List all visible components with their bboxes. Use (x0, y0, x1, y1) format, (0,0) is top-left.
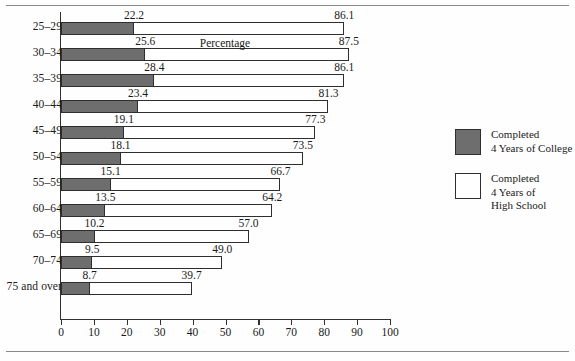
x-tick-label: 100 (381, 326, 398, 339)
filled-square-swatch (455, 129, 481, 155)
bar-value-label-college: 13.5 (95, 191, 115, 203)
category-label: 45–49 (0, 124, 62, 136)
category-label: 55–59 (0, 176, 62, 188)
bar-college (61, 22, 134, 35)
bar-value-label-high-school: 39.7 (182, 269, 202, 281)
category-label: 25–29 (0, 20, 62, 32)
legend-label: Completed 4 Years of High School (491, 172, 575, 213)
bar-college (61, 204, 105, 217)
x-tick-mark (61, 319, 62, 325)
bar-college (61, 48, 145, 61)
x-tick-label: 70 (286, 326, 298, 339)
x-tick-mark (193, 319, 194, 325)
category-label: 50–54 (0, 150, 62, 162)
legend-label: Completed 4 Years of College (491, 128, 575, 155)
bar-value-label-college: 9.5 (85, 243, 99, 255)
category-label: 65–69 (0, 228, 62, 240)
x-tick-mark (258, 319, 259, 325)
bar-value-label-college: 28.4 (144, 61, 164, 73)
x-tick-label: 10 (88, 326, 100, 339)
bar-row: 25–2922.286.1 (0, 12, 575, 38)
category-label: 35–39 (0, 72, 62, 84)
x-tick-label: 30 (154, 326, 166, 339)
x-tick-mark (390, 319, 391, 325)
figure-top-rule (6, 5, 569, 6)
bar-value-label-high-school: 66.7 (270, 165, 290, 177)
x-tick-label: 40 (187, 326, 199, 339)
category-label: 70–74 (0, 254, 62, 266)
x-tick-label: 80 (318, 326, 330, 339)
bar-value-label-high-school: 73.5 (293, 139, 313, 151)
x-tick-mark (94, 319, 95, 325)
x-tick-mark (357, 319, 358, 325)
bar-college (61, 230, 95, 243)
bar-college (61, 152, 121, 165)
bar-college (61, 74, 154, 87)
bar-value-label-high-school: 77.3 (305, 113, 325, 125)
bar-row: 75 and over8.739.7 (0, 272, 575, 298)
category-label: 40–44 (0, 98, 62, 110)
bar-value-label-college: 19.1 (114, 113, 134, 125)
legend-item: Completed 4 Years of High School (455, 172, 575, 213)
bar-value-label-college: 8.7 (82, 269, 96, 281)
bar-college (61, 126, 124, 139)
bar-college (61, 282, 90, 295)
bar-value-label-college: 15.1 (101, 165, 121, 177)
figure-bar-chart-education-by-age: 25–2922.286.130–3425.687.535–3928.486.14… (0, 0, 575, 361)
bar-value-label-high-school: 81.3 (318, 87, 338, 99)
x-tick-label: 60 (253, 326, 265, 339)
x-tick-mark (226, 319, 227, 325)
x-tick-mark (324, 319, 325, 325)
x-tick-mark (127, 319, 128, 325)
category-label: 60–64 (0, 202, 62, 214)
bar-value-label-high-school: 86.1 (334, 9, 354, 21)
hollow-square-swatch (455, 173, 481, 199)
x-tick-mark (160, 319, 161, 325)
x-axis-title: Percentage (0, 37, 450, 49)
x-tick-label: 50 (220, 326, 232, 339)
bar-value-label-high-school: 49.0 (212, 243, 232, 255)
category-label: 75 and over (0, 280, 62, 292)
bar-college (61, 178, 111, 191)
bar-value-label-college: 23.4 (128, 87, 148, 99)
bar-value-label-high-school: 86.1 (334, 61, 354, 73)
x-tick-label: 0 (58, 326, 64, 339)
bar-value-label-college: 22.2 (124, 9, 144, 21)
figure-bottom-rule (6, 351, 569, 352)
bar-row: 35–3928.486.1 (0, 64, 575, 90)
legend: Completed 4 Years of CollegeCompleted 4 … (455, 128, 575, 227)
x-tick-label: 20 (121, 326, 133, 339)
bar-value-label-college: 10.2 (84, 217, 104, 229)
bar-college (61, 256, 92, 269)
bar-value-label-college: 18.1 (110, 139, 130, 151)
bar-row: 40–4423.481.3 (0, 90, 575, 116)
x-tick-mark (291, 319, 292, 325)
legend-item: Completed 4 Years of College (455, 128, 575, 158)
x-tick-label: 90 (351, 326, 363, 339)
bar-value-label-high-school: 64.2 (262, 191, 282, 203)
bar-college (61, 100, 138, 113)
bar-value-label-high-school: 57.0 (238, 217, 258, 229)
